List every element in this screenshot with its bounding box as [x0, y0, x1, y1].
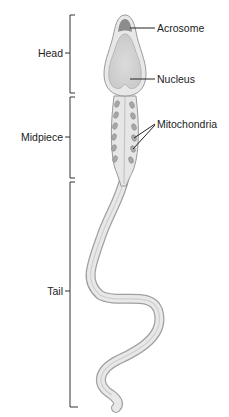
- acrosome-label: Acrosome: [157, 22, 204, 34]
- midpiece-label: Midpiece: [21, 131, 63, 143]
- sperm-diagram: Head Midpiece Tail Acrosome Nucleus Mito…: [0, 0, 229, 417]
- nucleus-label: Nucleus: [157, 73, 195, 85]
- mitochondria-label: Mitochondria: [157, 118, 217, 130]
- head-shape: [104, 15, 146, 96]
- tail-label: Tail: [47, 285, 63, 297]
- tail-bracket: [70, 182, 78, 407]
- region-brackets: [65, 15, 78, 407]
- midpiece-bracket: [70, 97, 75, 178]
- head-label: Head: [38, 47, 63, 59]
- sperm-illustration: [0, 0, 229, 417]
- tail-shape: [91, 176, 160, 408]
- midpiece-shape: [111, 96, 139, 186]
- head-bracket: [70, 15, 75, 93]
